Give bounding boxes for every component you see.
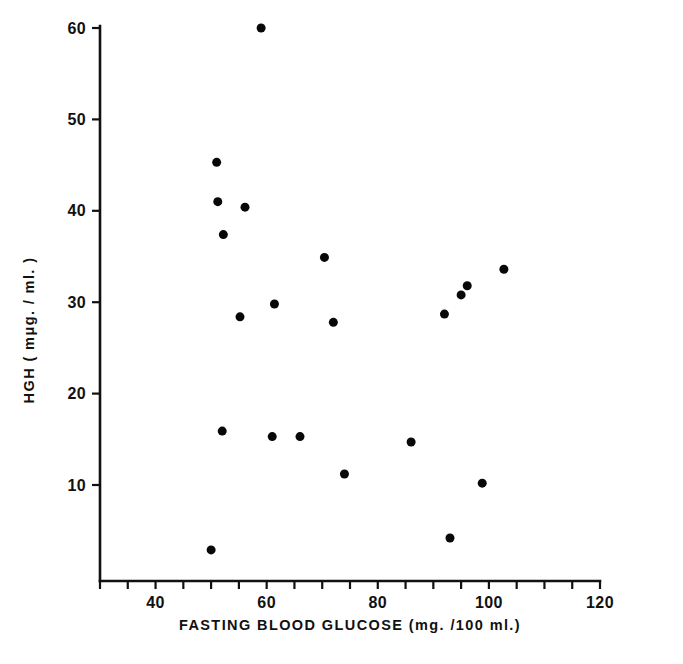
y-tick-label-30: 30 [67,294,86,311]
data-point [457,290,466,299]
data-point [463,281,472,290]
data-point [296,432,305,441]
scatter-plot-figure: 102030405060 406080100120 FASTING BLOOD … [0,0,683,664]
data-point [213,197,222,206]
y-tick-label-10: 10 [67,477,86,494]
data-point [407,438,416,447]
data-point [320,253,329,262]
data-point [340,470,349,479]
data-point [236,312,245,321]
x-tick-label-100: 100 [475,594,503,611]
x-axis-tick-labels: 406080100120 [146,594,614,611]
x-tick-label-80: 80 [368,594,387,611]
y-tick-label-50: 50 [67,111,86,128]
axes-group [100,26,600,581]
x-tick-label-40: 40 [146,594,165,611]
data-point [499,265,508,274]
data-point [270,300,279,309]
y-axis-title: HGH ( mμg. / ml. ) [21,257,37,404]
data-point [257,24,266,33]
y-tick-label-60: 60 [67,20,86,37]
data-point [478,479,487,488]
data-point-series [207,24,509,555]
data-point [219,230,228,239]
data-point [440,310,449,319]
y-axis-tick-labels: 102030405060 [67,20,86,494]
data-point [446,534,455,543]
x-tick-label-120: 120 [586,594,614,611]
data-point [268,432,277,441]
data-point [218,427,227,436]
plot-canvas: 102030405060 406080100120 FASTING BLOOD … [0,0,683,664]
x-tick-label-60: 60 [257,594,276,611]
data-point [207,545,216,554]
data-point [241,203,250,212]
data-point [212,158,221,167]
y-tick-label-40: 40 [67,202,86,219]
data-point [329,318,338,327]
x-axis-title: FASTING BLOOD GLUCOSE (mg. /100 ml.) [179,617,521,633]
y-tick-label-20: 20 [67,385,86,402]
